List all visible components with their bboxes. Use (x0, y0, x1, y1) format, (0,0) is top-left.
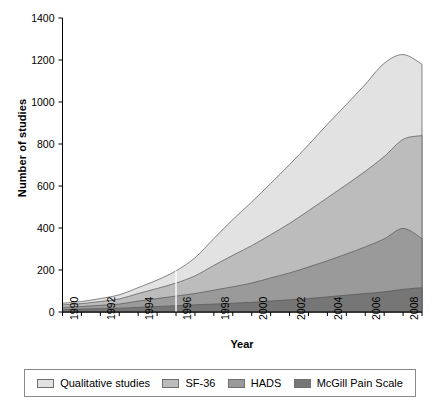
legend-item[interactable]: McGill Pain Scale (294, 377, 403, 389)
chart-legend: Qualitative studiesSF-36HADSMcGill Pain … (24, 369, 416, 397)
y-tick-label: 400 (15, 222, 55, 234)
x-tick-label: 2000 (257, 297, 269, 320)
legend-swatch-icon (294, 379, 311, 388)
legend-swatch-icon (37, 379, 54, 388)
x-tick-label: 1992 (105, 297, 117, 320)
y-tick-label: 1000 (15, 96, 55, 108)
legend-label: Qualitative studies (60, 377, 150, 389)
x-tick-label: 2008 (408, 297, 420, 320)
y-tick-label: 1400 (15, 12, 55, 24)
legend-label: SF-36 (185, 377, 215, 389)
y-tick-label: 800 (15, 138, 55, 150)
x-tick-label: 2004 (332, 297, 344, 320)
legend-swatch-icon (162, 379, 179, 388)
legend-label: HADS (251, 377, 282, 389)
legend-item[interactable]: HADS (228, 377, 282, 389)
x-tick-label: 1996 (181, 297, 193, 320)
x-tick-label: 1990 (68, 297, 80, 320)
x-tick-label: 1998 (219, 297, 231, 320)
stacked-area-chart: Number of studies Year 02004006008001000… (0, 0, 442, 358)
legend-swatch-icon (228, 379, 245, 388)
y-tick-label: 200 (15, 264, 55, 276)
y-tick-label: 600 (15, 180, 55, 192)
x-tick-label: 2006 (370, 297, 382, 320)
x-tick-label: 1994 (143, 297, 155, 320)
legend-label: McGill Pain Scale (317, 377, 403, 389)
x-axis-title: Year (62, 338, 422, 350)
x-tick-label: 2002 (295, 297, 307, 320)
y-tick-label: 1200 (15, 54, 55, 66)
y-tick-label: 0 (15, 306, 55, 318)
chart-page: Number of studies Year 02004006008001000… (0, 0, 442, 412)
legend-item[interactable]: SF-36 (162, 377, 215, 389)
legend-item[interactable]: Qualitative studies (37, 377, 150, 389)
